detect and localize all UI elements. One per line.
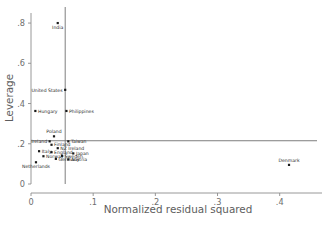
y-axis-tick-label: .2 — [17, 139, 25, 149]
data-point-label: United States — [31, 88, 63, 93]
data-point-label: Netherlands — [22, 164, 51, 169]
data-point-label: Austria — [71, 157, 87, 162]
data-point-marker — [288, 164, 290, 166]
leverage-vs-residual-scatter-plot: 0.2.4.6.8 0.1.2.3.4 IndiaUnited StatesHu… — [0, 0, 330, 227]
data-point-marker — [35, 161, 37, 163]
y-axis-tick-label: .8 — [17, 18, 25, 28]
data-point-marker — [64, 89, 66, 91]
data-point-marker — [67, 158, 69, 160]
data-point-label: Taiwan — [70, 139, 87, 144]
x-axis-tick-label: 0 — [28, 197, 33, 207]
data-point-label: Hungary — [38, 109, 58, 114]
data-point-marker — [50, 144, 52, 146]
data-point-label: Poland — [46, 129, 61, 134]
data-point-marker — [65, 110, 67, 112]
data-point-label: Ireland — [31, 139, 47, 144]
data-point-label: Philippines — [69, 109, 94, 114]
data-point-label: India — [52, 25, 63, 30]
data-point-marker — [53, 135, 55, 137]
data-point-marker — [42, 155, 44, 157]
y-axis-title: Leverage — [3, 74, 15, 122]
x-axis-title: Normalized residual squared — [104, 203, 253, 215]
data-point-marker — [49, 140, 51, 142]
y-axis-tick-label: .4 — [17, 99, 25, 109]
data-point-marker — [55, 158, 57, 160]
x-axis-tick-label: .4 — [276, 197, 284, 207]
y-axis-tick-label: 0 — [20, 179, 25, 189]
y-axis-tick-label: .6 — [17, 58, 25, 68]
data-point-marker — [38, 150, 40, 152]
x-axis-tick-label: .1 — [89, 197, 97, 207]
data-point-marker — [34, 110, 36, 112]
data-point-label: Denmark — [278, 158, 299, 163]
data-point-marker — [57, 22, 59, 24]
